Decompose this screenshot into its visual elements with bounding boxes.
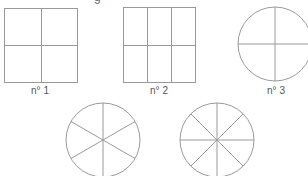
- radius-divider: [71, 140, 103, 159]
- radius-divider: [191, 114, 217, 140]
- figure-label-n1: n° 1: [31, 86, 49, 96]
- figure-label-n3: n° 3: [267, 86, 285, 96]
- figure-n5-circle-eighths: [180, 103, 254, 176]
- radius-divider: [103, 140, 135, 159]
- figure-n3-circle-quarters: [238, 7, 308, 81]
- radius-divider: [217, 114, 243, 140]
- figure-n2-square-sixths: [123, 7, 196, 83]
- radius-divider: [103, 122, 135, 141]
- radius-divider: [217, 140, 243, 166]
- figure-n1-square-quarters: [4, 8, 78, 83]
- radius-divider: [191, 140, 217, 166]
- figure-label-n2: n° 2: [150, 86, 168, 96]
- figure-n4-circle-sixths: [66, 103, 140, 176]
- radius-divider: [71, 122, 103, 141]
